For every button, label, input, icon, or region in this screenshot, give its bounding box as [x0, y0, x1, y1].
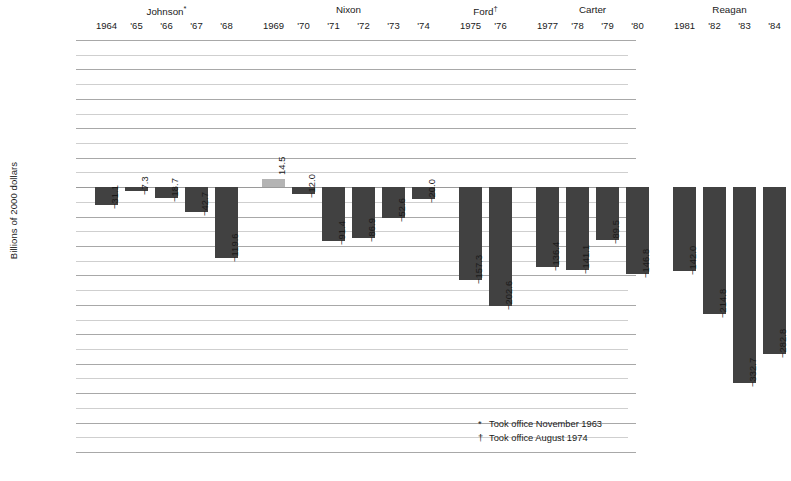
x-tick-year-label: '76: [481, 20, 521, 31]
bar-value-label: −146.8: [641, 248, 651, 277]
bar-value-label: −52.6: [397, 198, 407, 222]
bar-value-label: −136.4: [551, 242, 561, 271]
bar-value-label: −86.9: [367, 218, 377, 242]
president-group-label: Johnson*: [117, 4, 217, 17]
bar-value-label: −157.3: [474, 254, 484, 283]
bar-value-label: −18.7: [170, 178, 180, 202]
footnote-item: *Took office November 1963: [478, 418, 602, 432]
gridline-minor: [76, 84, 628, 85]
bar-value-label: −202.6: [504, 281, 514, 310]
bar-value-label: −282.8: [778, 328, 788, 357]
president-group-label: Ford†: [436, 4, 536, 17]
y-axis-title: Billions of 2000 dollars: [8, 146, 19, 276]
gridline-minor: [76, 320, 628, 321]
gridline-minor: [76, 290, 628, 291]
gridline-major: [76, 99, 636, 100]
bar-value-label: −12.0: [307, 174, 317, 198]
gridline-major: [76, 364, 636, 365]
x-tick-year-label: '74: [404, 20, 444, 31]
bar-value-label: −119.6: [230, 233, 240, 262]
president-group-label: Nixon: [299, 4, 399, 15]
bar-value-label: −141.1: [581, 245, 591, 274]
x-tick-year-label: '80: [618, 20, 658, 31]
footnote-item: †Took office August 1974: [478, 432, 602, 446]
gridline-major: [76, 452, 636, 453]
bar-value-label: −142.0: [688, 245, 698, 274]
footnote-mark: *: [478, 418, 489, 432]
gridline-minor: [76, 114, 628, 115]
bar: [262, 179, 285, 188]
gridline-minor: [76, 349, 628, 350]
gridline-major: [76, 69, 636, 70]
bar-value-label: −31.1: [110, 185, 120, 209]
x-axis-header: 1964'65'66'67'681969'70'71'72'73'741975'…: [76, 0, 636, 40]
gridline-minor: [76, 172, 628, 173]
x-tick-year-label: '68: [207, 20, 247, 31]
bar-value-label: −89.5: [611, 220, 621, 244]
gridline-major: [76, 393, 636, 394]
gridline-major: [76, 40, 636, 41]
bar-value-label: −7.3: [140, 177, 150, 196]
bar-value-label: −214.8: [718, 288, 728, 317]
gridline-major: [76, 334, 636, 335]
gridline-major: [76, 158, 636, 159]
gridline-major: [76, 305, 636, 306]
footnotes: *Took office November 1963†Took office A…: [478, 418, 602, 445]
bar-value-label: −20.0: [427, 179, 437, 203]
gridline-minor: [76, 378, 628, 379]
plot-area: 250200150100500−50−100−150−200−250−300−3…: [76, 40, 636, 452]
president-group-label: Reagan: [680, 4, 780, 15]
bar-value-label: 14.5: [277, 156, 287, 175]
bar-value-label: −332.7: [748, 358, 758, 387]
gridline-major: [76, 128, 636, 129]
gridline-major: [76, 275, 636, 276]
footnote-text: Took office August 1974: [489, 433, 588, 443]
footnote-mark: †: [478, 432, 489, 446]
gridline-minor: [76, 408, 628, 409]
president-group-label: Carter: [543, 4, 643, 15]
bar: [733, 187, 756, 383]
gridline-minor: [76, 143, 628, 144]
bar-value-label: −91.4: [337, 221, 347, 245]
bar-value-label: −42.7: [200, 192, 210, 216]
gridline-minor: [76, 55, 628, 56]
footnote-text: Took office November 1963: [489, 419, 602, 429]
x-tick-year-label: '84: [755, 20, 791, 31]
